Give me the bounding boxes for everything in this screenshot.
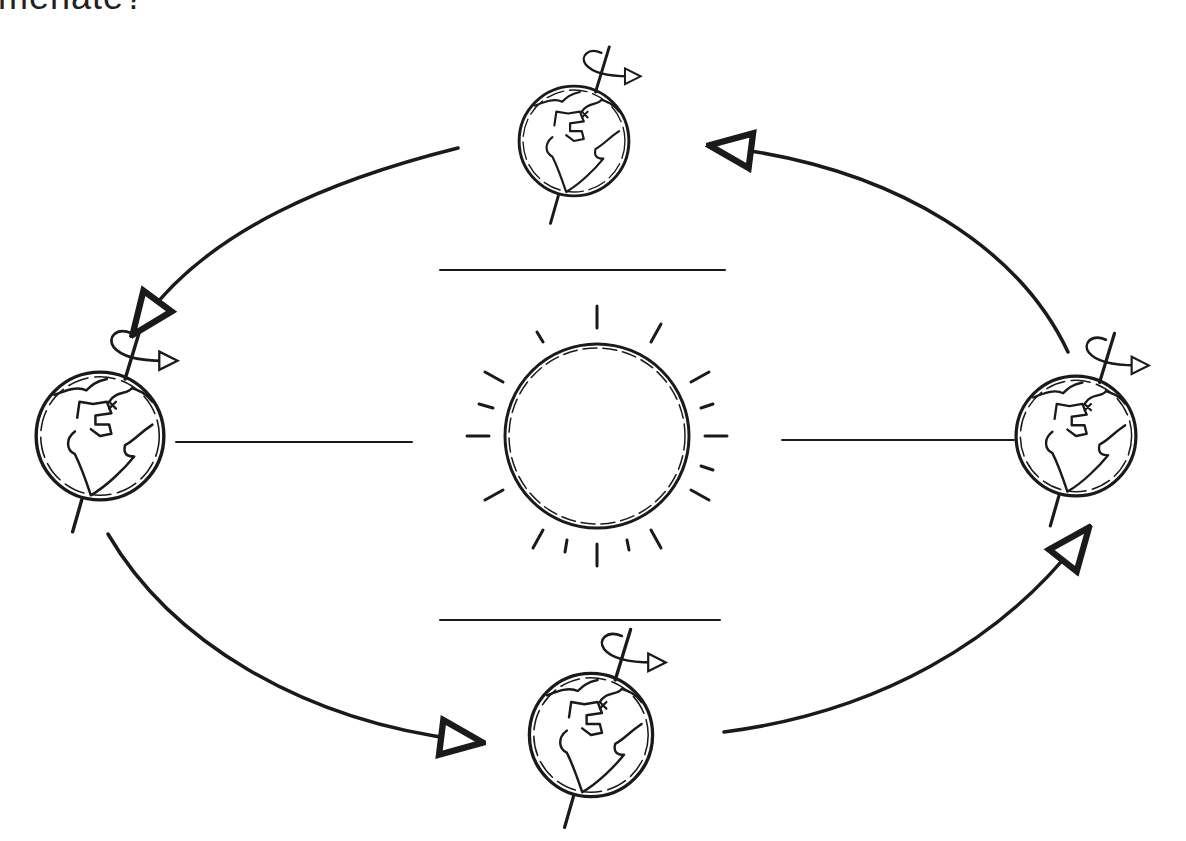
earth-left <box>36 327 177 532</box>
orbit-arrow-bottom-to-right <box>724 544 1076 732</box>
earth-bottom <box>529 629 665 827</box>
sun <box>467 306 727 566</box>
orbit-arrow-right-to-top <box>730 148 1068 352</box>
orbit-arrow-top-to-left <box>145 148 458 318</box>
earth-right <box>1016 333 1149 526</box>
orbit-diagram <box>0 0 1186 841</box>
earth-top <box>519 47 641 223</box>
orbit-arrow-left-to-bottom <box>108 534 462 740</box>
